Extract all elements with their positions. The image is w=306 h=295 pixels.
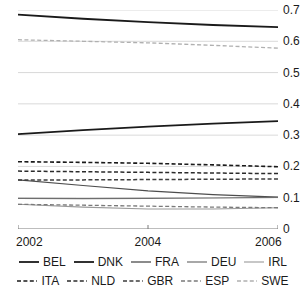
series-line-fra (18, 180, 278, 197)
legend-entry-deu[interactable]: DEU (187, 256, 236, 268)
legend-label: GBR (147, 275, 173, 287)
legend: BELDNKFRADEUIRL ITANLDGBRESPSWE (0, 252, 306, 290)
y-tick-label: 0.4 (283, 98, 300, 110)
plot-area (18, 10, 278, 229)
legend-swatch-swe-icon (237, 277, 257, 285)
legend-label: IRL (268, 256, 287, 268)
legend-entry-bel[interactable]: BEL (19, 256, 66, 268)
series-lines (18, 15, 278, 209)
legend-label: SWE (261, 275, 288, 287)
legend-label: FRA (155, 256, 179, 268)
legend-label: DNK (98, 256, 123, 268)
legend-label: NLD (91, 275, 115, 287)
legend-swatch-deu-icon (187, 258, 207, 266)
legend-entry-ita[interactable]: ITA (17, 275, 59, 287)
series-line-nld (18, 171, 278, 174)
y-tick-label: 0.3 (283, 129, 300, 141)
legend-entry-dnk[interactable]: DNK (74, 256, 123, 268)
series-line-bel (18, 15, 278, 28)
legend-entry-nld[interactable]: NLD (67, 275, 115, 287)
x-tick-label: 2002 (16, 236, 43, 248)
legend-swatch-ita-icon (17, 277, 37, 285)
y-tick-label: 0.7 (283, 4, 300, 16)
legend-swatch-bel-icon (19, 258, 39, 266)
plot-svg (18, 10, 278, 229)
line-chart: 00.10.20.30.40.50.60.7 200220042006 BELD… (0, 0, 306, 295)
gridlines (18, 10, 278, 198)
series-line-dnk (18, 121, 278, 134)
series-line-ita (18, 162, 278, 167)
y-tick-label: 0.6 (283, 35, 300, 47)
legend-row-dashed: ITANLDGBRESPSWE (0, 271, 306, 290)
legend-swatch-irl-icon (244, 258, 264, 266)
legend-swatch-gbr-icon (123, 277, 143, 285)
legend-swatch-nld-icon (67, 277, 87, 285)
legend-entry-irl[interactable]: IRL (244, 256, 287, 268)
legend-swatch-esp-icon (181, 277, 201, 285)
legend-entry-gbr[interactable]: GBR (123, 275, 173, 287)
legend-entry-fra[interactable]: FRA (131, 256, 179, 268)
axis-lines (18, 225, 278, 229)
y-tick-label: 0.5 (283, 67, 300, 79)
x-tick-label: 2004 (135, 236, 162, 248)
legend-label: ESP (205, 275, 229, 287)
legend-label: BEL (43, 256, 66, 268)
series-line-gbr (18, 179, 278, 180)
legend-entry-esp[interactable]: ESP (181, 275, 229, 287)
legend-label: DEU (211, 256, 236, 268)
y-tick-label: 0 (283, 223, 290, 235)
y-tick-label: 0.2 (283, 160, 300, 172)
legend-swatch-fra-icon (131, 258, 151, 266)
x-tick-label: 2006 (255, 236, 282, 248)
legend-swatch-dnk-icon (74, 258, 94, 266)
y-tick-label: 0.1 (283, 192, 300, 204)
legend-entry-swe[interactable]: SWE (237, 275, 288, 287)
legend-label: ITA (41, 275, 59, 287)
legend-row-solid: BELDNKFRADEUIRL (0, 252, 306, 271)
